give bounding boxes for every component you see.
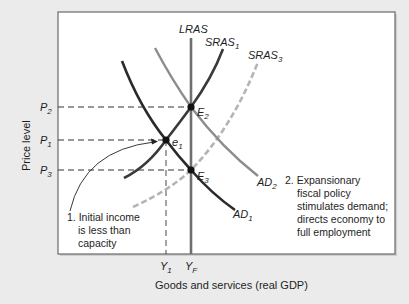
p3-label: P3 xyxy=(40,164,52,179)
point-e3 xyxy=(187,166,194,173)
p1-label: P1 xyxy=(40,134,52,149)
as-ad-diagram: LRAS SRAS1 SRAS3 AD2 AD1 E2 e1 E3 P2 P1 … xyxy=(0,0,409,304)
yf-label: YF xyxy=(185,260,198,275)
point-e1 xyxy=(162,136,169,143)
y-axis-title: Price level xyxy=(20,120,32,171)
y1-label: Y1 xyxy=(160,260,172,275)
p2-label: P2 xyxy=(40,101,52,116)
lras-label: LRAS xyxy=(179,23,208,35)
x-axis-title: Goods and services (real GDP) xyxy=(155,279,308,291)
point-e2 xyxy=(187,103,194,110)
